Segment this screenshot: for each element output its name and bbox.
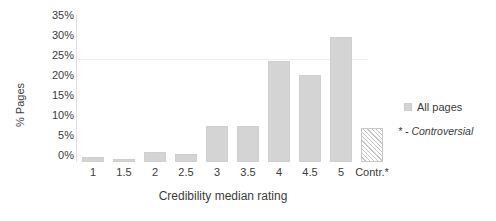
y-tick-label: 25% <box>40 50 74 61</box>
y-axis-title: % Pages <box>14 60 30 150</box>
footnote-controversial: * - Controversial <box>398 125 473 137</box>
bar-3[interactable] <box>206 126 228 162</box>
y-tick-label: 35% <box>40 10 74 21</box>
y-tick-label: 15% <box>40 90 74 101</box>
y-axis-line <box>76 15 77 162</box>
bar-1-5[interactable] <box>113 159 135 162</box>
bar-4[interactable] <box>268 61 290 162</box>
y-tick-label: 20% <box>40 70 74 81</box>
bar-2-5[interactable] <box>175 154 197 162</box>
y-tick-label: 30% <box>40 30 74 41</box>
y-tick-label: 0% <box>40 150 74 161</box>
all-pages-swatch-icon <box>404 103 412 111</box>
bar-5[interactable] <box>330 37 352 162</box>
bar-4-5[interactable] <box>299 75 321 162</box>
y-tick-label: 5% <box>40 130 74 141</box>
bar-chart: % Pages 35% 30% 25% 20% 15% 10% 5% 0% 1 … <box>0 0 496 221</box>
bar-1[interactable] <box>82 157 104 162</box>
x-axis-title: Credibility median rating <box>78 189 368 203</box>
bar-contr[interactable] <box>361 128 383 162</box>
y-axis-tick-labels: 35% 30% 25% 20% 15% 10% 5% 0% <box>40 10 74 162</box>
y-tick-label: 10% <box>40 110 74 121</box>
bar-3-5[interactable] <box>237 126 259 162</box>
x-tick-label-contr: Contr.* <box>350 166 394 179</box>
plot-area <box>78 15 368 162</box>
gridline-0 <box>78 162 368 163</box>
x-axis-tick-labels: 1 1.5 2 2.5 3 3.5 4 4.5 5 Contr.* <box>78 166 368 182</box>
legend: All pages <box>400 99 466 115</box>
bar-2[interactable] <box>144 152 166 163</box>
legend-item-all-pages: All pages <box>417 101 462 113</box>
bar-series-all-pages <box>78 15 368 162</box>
